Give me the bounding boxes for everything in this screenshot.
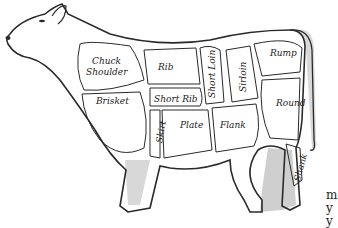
label-sirloin: Sirloin [238,62,248,92]
label-plate: Plate [180,120,203,130]
label-rump: Rump [270,48,297,58]
cut-round [261,78,300,140]
front-leg-shade [125,160,150,205]
cow-illustration [0,0,338,228]
label-chuck-line1: Chuck [92,56,121,66]
text-fragment-3: y [326,214,333,228]
nose [6,36,11,40]
label-chuck-line2: Shoulder [86,67,127,77]
cow-body-outline [7,4,305,212]
label-short-loin: Short Loin [207,50,217,98]
label-round: Round [276,98,306,108]
label-flank: Flank [220,120,246,130]
label-rib: Rib [158,62,173,72]
eye [39,20,45,23]
text-fragment-2: y [326,201,333,215]
hind-leg-shade [260,148,296,212]
cut-rump [254,41,302,76]
cut-plate [162,110,212,158]
text-fragment-1: m [326,188,337,202]
label-brisket: Brisket [96,96,129,106]
label-short-rib: Short Rib [154,94,198,104]
